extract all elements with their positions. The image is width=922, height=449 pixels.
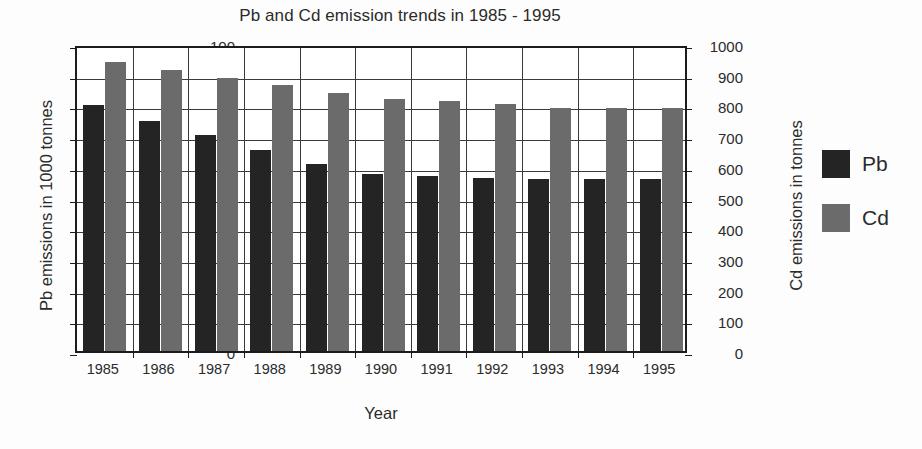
bar-pb	[640, 179, 661, 351]
vertical-gridline	[466, 48, 467, 351]
x-axis-tick-label: 1994	[574, 361, 634, 377]
vertical-gridline	[133, 48, 134, 351]
y-axis-right-tick-label: 600	[697, 160, 743, 177]
y-axis-left-tick	[70, 202, 77, 203]
vertical-gridline	[411, 48, 412, 351]
x-axis-tick-label: 1987	[184, 361, 244, 377]
x-axis-tick-label: 1985	[73, 361, 133, 377]
y-axis-right-tick	[685, 324, 692, 325]
bar-cd	[328, 93, 349, 351]
legend-item-cd[interactable]: Cd	[822, 204, 922, 232]
bar-cd	[495, 104, 516, 351]
x-axis-tick-label: 1992	[462, 361, 522, 377]
bar-pb	[473, 178, 494, 351]
x-axis-tick	[411, 351, 412, 358]
bar-pb	[83, 105, 104, 351]
x-axis-tick	[244, 351, 245, 358]
legend-label: Pb	[862, 152, 888, 176]
bar-pb	[250, 150, 271, 351]
y-axis-right-tick-label: 500	[697, 191, 743, 208]
y-axis-right-tick	[685, 48, 692, 49]
vertical-gridline	[633, 48, 634, 351]
bar-pb	[528, 179, 549, 351]
vertical-gridline	[188, 48, 189, 351]
y-axis-left-tick	[70, 294, 77, 295]
x-axis-tick-label: 1989	[295, 361, 355, 377]
legend-label: Cd	[862, 206, 889, 230]
chart-legend: PbCd	[822, 150, 922, 258]
legend-swatch-icon	[822, 150, 850, 178]
y-axis-right-tick	[685, 171, 692, 172]
bar-cd	[662, 108, 683, 351]
x-axis-tick-label: 1986	[128, 361, 188, 377]
y-axis-right-tick-label: 300	[697, 252, 743, 269]
y-axis-left-tick	[70, 109, 77, 110]
y-axis-left-tick	[70, 79, 77, 80]
y-axis-right-tick-label: 100	[697, 314, 743, 331]
x-axis-tick-label: 1988	[240, 361, 300, 377]
y-axis-right-tick-label: 200	[697, 283, 743, 300]
y-axis-right-tick-label: 800	[697, 99, 743, 116]
bar-cd	[439, 101, 460, 351]
y-axis-left-tick	[70, 263, 77, 264]
y-axis-left-tick	[70, 140, 77, 141]
y-axis-right-tick	[685, 263, 692, 264]
x-axis-tick	[466, 351, 467, 358]
bar-cd	[105, 62, 126, 351]
plot-area	[75, 46, 687, 353]
vertical-gridline	[522, 48, 523, 351]
y-axis-left-tick	[70, 324, 77, 325]
bar-cd	[217, 78, 238, 351]
vertical-gridline	[355, 48, 356, 351]
y-axis-left-title: Pb emissions in 1000 tonnes	[37, 56, 56, 356]
bar-cd	[384, 99, 405, 351]
y-axis-right-tick	[685, 294, 692, 295]
bar-pb	[417, 176, 438, 351]
y-axis-right-tick-label: 700	[697, 130, 743, 147]
y-axis-right-tick	[685, 79, 692, 80]
x-axis-tick-label: 1995	[629, 361, 689, 377]
x-axis-tick-label: 1993	[518, 361, 578, 377]
y-axis-left-tick	[70, 48, 77, 49]
bar-pb	[306, 164, 327, 351]
chart-figure: Pb and Cd emission trends in 1985 - 1995…	[0, 0, 922, 449]
x-axis-tick	[633, 351, 634, 358]
bar-pb	[362, 174, 383, 351]
y-axis-right-tick-label: 900	[697, 68, 743, 85]
bar-pb	[139, 121, 160, 351]
x-axis-tick-label: 1991	[407, 361, 467, 377]
legend-item-pb[interactable]: Pb	[822, 150, 922, 178]
y-axis-right-tick	[685, 202, 692, 203]
chart-title: Pb and Cd emission trends in 1985 - 1995	[120, 6, 680, 26]
y-axis-left-tick	[70, 232, 77, 233]
y-axis-right-tick	[685, 140, 692, 141]
vertical-gridline	[300, 48, 301, 351]
y-axis-right-tick	[685, 109, 692, 110]
y-axis-right-tick-label: 1000	[697, 38, 743, 55]
y-axis-left-tick	[70, 355, 77, 356]
x-axis-tick	[522, 351, 523, 358]
legend-swatch-icon	[822, 204, 850, 232]
vertical-gridline	[244, 48, 245, 351]
bar-pb	[584, 179, 605, 351]
x-axis-tick	[188, 351, 189, 358]
y-axis-right-tick	[685, 232, 692, 233]
bar-pb	[195, 135, 216, 351]
x-axis-tick	[355, 351, 356, 358]
bar-cd	[272, 85, 293, 351]
y-axis-right-tick	[685, 355, 692, 356]
x-axis-tick	[133, 351, 134, 358]
y-axis-left-tick	[70, 171, 77, 172]
y-axis-right-title: Cd emissions in tonnes	[787, 56, 806, 356]
x-axis-tick	[300, 351, 301, 358]
x-axis-tick-label: 1990	[351, 361, 411, 377]
bar-cd	[550, 108, 571, 351]
vertical-gridline	[578, 48, 579, 351]
y-axis-right-tick-label: 0	[697, 345, 743, 362]
bar-cd	[161, 70, 182, 351]
bar-cd	[606, 108, 627, 351]
x-axis-title: Year	[75, 404, 687, 423]
x-axis-tick	[578, 351, 579, 358]
y-axis-right-tick-label: 400	[697, 222, 743, 239]
